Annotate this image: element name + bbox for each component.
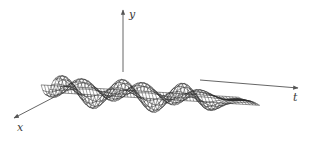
t-axis-label: t: [293, 92, 297, 103]
t-axis-arrow: [200, 80, 298, 88]
y-axis-label: y: [129, 9, 135, 20]
mesh-line-t: [41, 85, 239, 97]
wireframe-surface-plot: [0, 0, 312, 149]
surface-mesh: [41, 76, 260, 113]
x-axis-label: x: [17, 122, 23, 133]
x-axis-arrow: [14, 93, 62, 118]
wave-surface-figure: x y t: [0, 0, 312, 149]
